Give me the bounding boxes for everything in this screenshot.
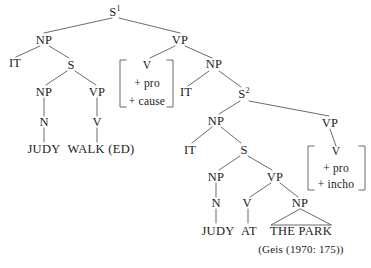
edge-vptop-feat1 [150,46,175,58]
node-it-3: IT [184,144,196,157]
terminal-at: AT [241,225,257,238]
edge-s2-vp [249,101,329,116]
citation: (Geis (1970: 175)) [258,244,343,255]
edge-sinner-vp [248,156,272,170]
node-n-inner: N [211,197,220,210]
terminal-the-park: THE PARK [270,225,332,238]
feature2-line-2: + pro [323,163,349,175]
node-v-left: V [92,116,101,129]
terminal-walked: WALK (ED) [68,143,135,156]
node-vp-left2: VP [89,86,105,99]
edge-vps2-feat2 [330,129,336,146]
edge-s1-np [44,18,112,33]
node-s-inner: S [240,144,247,157]
node-np-left: NP [36,34,52,47]
node-it-2: IT [180,86,192,99]
node-s1: S1 [109,6,120,19]
node-it-1: IT [9,57,21,70]
edge-npmid-s2 [219,71,241,87]
node-np-mid: NP [206,58,222,71]
node-s-left: S [67,59,74,72]
node-vp-top: VP [172,34,188,47]
edge-s2-np [219,101,240,114]
edge-vpinner-v [250,183,271,197]
node-v-inner: V [242,197,251,210]
node-np-pp: NP [292,197,308,210]
node-vp-s2: VP [322,117,338,130]
edge-sleft-vp [75,71,96,85]
feature1-line-3: + cause [129,96,165,108]
edge-np-s [49,46,69,58]
edge-nps2-sinner [221,127,241,143]
node-np-s2: NP [208,115,224,128]
edge-sleft-np [46,71,67,85]
node-np-inner: NP [208,171,224,184]
terminal-judy-right: JUDY [201,225,234,238]
triangle-the-park [271,209,331,225]
edge-s1-vp [119,18,180,33]
feature2-line-3: + incho [318,179,354,191]
feature1-line-1: V [143,60,152,72]
edge-sinner-np [219,156,240,170]
node-vp-inner: VP [267,171,283,184]
feature2-line-1: V [332,146,341,158]
node-n-left: N [39,116,48,129]
feature1-line-2: + pro [134,78,160,90]
edge-nps2-it [192,127,212,143]
terminal-judy-left: JUDY [27,143,60,156]
node-s2: S2 [238,88,249,101]
edge-npmid-it [188,71,209,86]
node-np-left2: NP [36,86,52,99]
